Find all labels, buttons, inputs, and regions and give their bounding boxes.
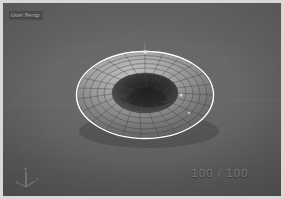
app-root: User Persp 100 / 100 Z Y X [0, 0, 284, 199]
gizmo-axis-label-x: X [16, 180, 19, 185]
axis-gizmo[interactable]: Z Y X [13, 165, 43, 193]
gizmo-axis-label-y: Y [35, 177, 39, 182]
gizmo-axis-label-z: Z [24, 167, 27, 172]
status-counter: 100 / 100 [191, 167, 248, 180]
viewport-header-label: User Persp [9, 11, 43, 20]
viewport-frame[interactable]: User Persp 100 / 100 Z Y X [0, 0, 284, 199]
